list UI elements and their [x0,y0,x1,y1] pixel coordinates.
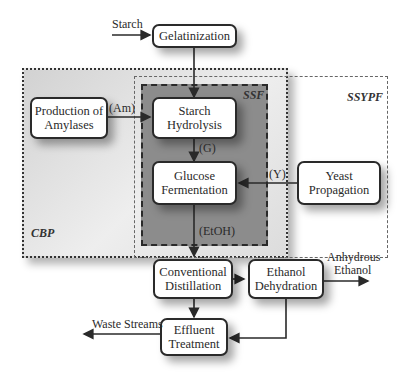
starch-hydrolysis-line1: Starch [179,104,211,118]
ethanol-dehydration-line2: Dehydration [255,279,317,293]
production-amylases-line2: Amylases [44,118,93,132]
yeast-propagation-line1: Yeast [325,169,352,183]
edge-label-etoh: (EtOH) [199,225,235,238]
edge-label-anhydrous-2: Ethanol [334,264,371,277]
node-glucose-fermentation: Glucose Fermentation [152,161,237,205]
glucose-fermentation-line1: Glucose [174,169,215,183]
glucose-fermentation-line2: Fermentation [161,183,228,197]
node-starch-hydrolysis: Starch Hydrolysis [152,97,237,139]
starch-hydrolysis-line2: Hydrolysis [167,118,222,132]
effluent-treatment-line2: Treatment [169,337,220,351]
conventional-distillation-line2: Distillation [165,279,221,293]
edge-label-waste-streams: Waste Streams [92,318,163,331]
yeast-propagation-line2: Propagation [309,183,369,197]
conventional-distillation-line1: Conventional [159,265,226,279]
ethanol-dehydration-line1: Ethanol [267,265,306,279]
edge-label-y: (Y) [269,168,286,181]
node-yeast-propagation: Yeast Propagation [297,161,381,205]
edge-label-starch: Starch [112,18,143,31]
node-effluent-treatment: Effluent Treatment [160,318,228,356]
edge-label-am: (Am) [109,102,135,115]
node-gelatinization: Gelatinization [152,24,237,48]
effluent-treatment-line1: Effluent [174,323,215,337]
node-ethanol-dehydration: Ethanol Dehydration [248,259,324,299]
node-conventional-distillation: Conventional Distillation [153,259,233,299]
gelatinization-label: Gelatinization [159,29,230,43]
production-amylases-line1: Production of [35,104,103,118]
edge-label-g: (G) [199,142,216,155]
node-production-of-amylases: Production of Amylases [30,97,108,139]
